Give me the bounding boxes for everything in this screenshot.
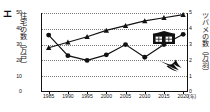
y-axis-tick-label: 10 (10, 74, 22, 79)
x-axis-tick-mark (106, 92, 107, 94)
x-axis-unit-label: (年) (188, 94, 196, 99)
chart-figure: エ 住宅の数（万戸） ツバメの数（万羽） 0102030405001234519… (0, 0, 210, 112)
y-axis-tick-label: 40 (10, 26, 22, 31)
y2-axis-tick-label: 3 (189, 42, 198, 47)
x-axis-tick-mark (68, 92, 69, 94)
x-axis-tick-mark (87, 92, 88, 94)
x-axis-tick-mark (126, 92, 127, 94)
y2-axis-tick-label: 1 (189, 74, 198, 79)
gridline (42, 76, 187, 77)
y2-axis-tick-label: 4 (189, 26, 198, 31)
right-axis-line (187, 13, 188, 92)
swallow-icon (155, 57, 183, 73)
y-axis-tick-label: 20 (10, 58, 22, 63)
y-axis-tick-label: 0 (10, 89, 22, 94)
y2-axis-tick-label: 5 (189, 10, 198, 15)
x-axis-tick-mark (183, 92, 184, 94)
y-axis-tick-label: 50 (10, 10, 22, 15)
x-axis-tick-mark (164, 92, 165, 94)
x-axis-tick-mark (145, 92, 146, 94)
x-axis-tick-mark (49, 92, 50, 94)
gridline (42, 13, 187, 14)
house-icon (152, 31, 176, 45)
y-axis-tick-label: 30 (10, 42, 22, 47)
gridline (42, 29, 187, 30)
plot-area (41, 13, 187, 92)
y2-axis-tick-label: 2 (189, 58, 198, 63)
